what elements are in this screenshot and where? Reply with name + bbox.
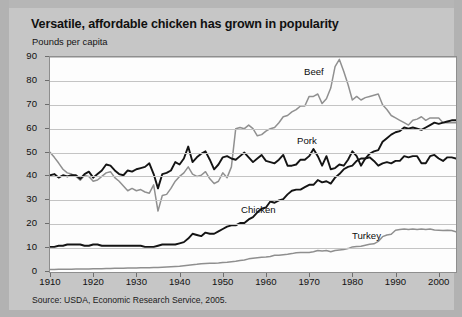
x-axis-tick-label: 1950 — [212, 276, 233, 287]
x-axis-tick-mark — [396, 273, 397, 277]
frame-top-edge — [0, 0, 462, 8]
gridline-horizontal — [50, 200, 456, 201]
series-line-beef — [50, 59, 456, 211]
y-axis-title: Pounds per capita — [32, 36, 108, 47]
x-axis-tick-label: 1970 — [298, 276, 319, 287]
source-note: Source: USDA, Economic Research Service,… — [32, 295, 227, 305]
series-label-beef: Beef — [304, 66, 324, 77]
x-axis-tick-label: 1930 — [126, 276, 147, 287]
gridline-horizontal — [50, 105, 456, 106]
gridline-horizontal — [50, 224, 456, 225]
x-axis-tick-mark — [352, 273, 353, 277]
frame-left-edge — [0, 0, 9, 317]
x-axis-tick-mark — [439, 273, 440, 277]
y-axis-tick-label: 50 — [13, 146, 37, 157]
chart-title: Versatile, affordable chicken has grown … — [31, 17, 339, 31]
y-axis-tick-label: 10 — [13, 241, 37, 252]
gridline-horizontal — [50, 129, 456, 130]
plot-area — [49, 56, 457, 273]
gridline-horizontal — [50, 81, 456, 82]
y-axis-tick-label: 20 — [13, 217, 37, 228]
x-axis-tick-mark — [180, 273, 181, 277]
x-axis-tick-label: 1920 — [83, 276, 104, 287]
x-axis-tick-mark — [266, 273, 267, 277]
x-axis-tick-mark — [309, 273, 310, 277]
x-axis-tick-label: 1960 — [255, 276, 276, 287]
gridline-horizontal — [50, 153, 456, 154]
series-line-turkey — [50, 229, 456, 270]
frame-bottom-edge — [0, 310, 462, 317]
series-label-turkey: Turkey — [352, 230, 381, 241]
gridline-horizontal — [50, 176, 456, 177]
y-axis-tick-label: 0 — [13, 265, 37, 276]
x-axis-tick-label: 1940 — [169, 276, 190, 287]
x-axis-tick-mark — [223, 273, 224, 277]
x-axis-tick-label: 2000 — [428, 276, 449, 287]
x-axis-tick-label: 1980 — [342, 276, 363, 287]
x-axis-tick-mark — [136, 273, 137, 277]
y-axis-tick-label: 30 — [13, 193, 37, 204]
y-axis-tick-label: 80 — [13, 74, 37, 85]
chart-screenshot: Versatile, affordable chicken has grown … — [0, 0, 462, 317]
chart-panel: Versatile, affordable chicken has grown … — [9, 8, 454, 310]
y-axis-tick-label: 60 — [13, 122, 37, 133]
series-lines — [50, 57, 456, 272]
y-axis-tick-label: 70 — [13, 98, 37, 109]
y-axis-tick-label: 40 — [13, 169, 37, 180]
gridline-horizontal — [50, 248, 456, 249]
series-label-pork: Pork — [297, 135, 317, 146]
y-axis-tick-label: 90 — [13, 50, 37, 61]
gridline-horizontal — [50, 57, 456, 58]
x-axis-tick-mark — [93, 273, 94, 277]
series-line-chicken — [50, 120, 456, 247]
series-label-chicken: Chicken — [241, 204, 276, 215]
x-axis-tick-label: 1910 — [39, 276, 60, 287]
x-axis-tick-label: 1990 — [385, 276, 406, 287]
x-axis-tick-mark — [50, 273, 51, 277]
